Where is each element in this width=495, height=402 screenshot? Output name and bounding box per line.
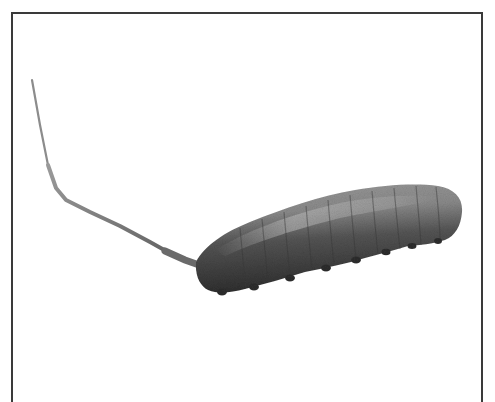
side-caption: · · · · · · · · · — [486, 150, 495, 387]
larva-body — [196, 185, 462, 296]
larva-tail — [32, 80, 202, 266]
